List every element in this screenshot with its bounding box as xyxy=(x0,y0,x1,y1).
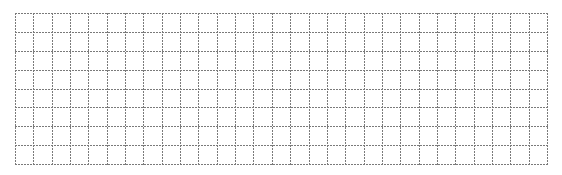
dotted-grid xyxy=(15,13,547,164)
grid-lines xyxy=(15,13,548,165)
